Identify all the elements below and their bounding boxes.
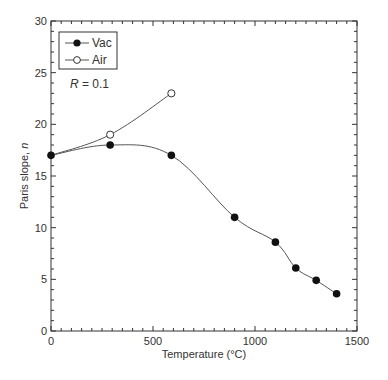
x-axis-label: Temperature (°C): [162, 348, 246, 360]
data-point-filled: [168, 152, 176, 160]
legend-vac-label: Vac: [92, 36, 112, 50]
series-layer: [47, 90, 340, 298]
legend-air-label: Air: [92, 53, 107, 67]
y-tick-label: 5: [41, 273, 47, 285]
data-point-filled: [292, 264, 300, 272]
legend-vac-marker-icon: [73, 39, 80, 46]
x-tick-label: 500: [144, 335, 162, 347]
ratio-value: = 0.1: [79, 77, 110, 91]
y-tick-label: 15: [35, 170, 47, 182]
data-point-filled: [272, 238, 280, 246]
y-tick-label: 30: [35, 15, 47, 27]
data-point-filled: [47, 152, 55, 160]
y-tick-label: 20: [35, 118, 47, 130]
series-line: [51, 145, 337, 294]
x-tick-label: 1000: [243, 335, 267, 347]
legend: Vac Air: [59, 32, 117, 69]
x-tick-label: 1500: [345, 335, 369, 347]
data-point-filled: [312, 277, 320, 285]
data-point-open: [168, 90, 175, 97]
data-point-filled: [231, 214, 239, 222]
ratio-symbol: R: [70, 77, 79, 91]
series-vac: [47, 141, 340, 297]
legend-air-marker-icon: [74, 57, 81, 64]
y-tick-label: 0: [41, 325, 47, 337]
y-tick-label: 25: [35, 67, 47, 79]
data-point-open: [107, 131, 114, 138]
paris-slope-chart: 050010001500051015202530 Vac Air R = 0.1…: [0, 0, 388, 380]
y-tick-label: 10: [35, 222, 47, 234]
data-point-filled: [333, 290, 341, 298]
data-point-filled: [106, 141, 114, 149]
y-axis-label-var: n: [18, 143, 30, 149]
y-axis-label-text: Paris slope,: [18, 149, 30, 210]
x-tick-label: 0: [48, 335, 54, 347]
ratio-annotation: R = 0.1: [70, 77, 109, 91]
y-axis-label: Paris slope, n: [18, 143, 30, 210]
